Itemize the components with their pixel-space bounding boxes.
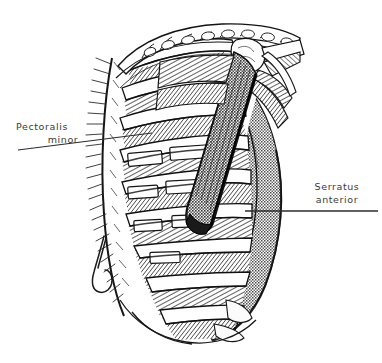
label-serratus-anterior-line1: Serratus bbox=[315, 181, 360, 192]
label-pectoralis-minor: Pectoralis minor bbox=[16, 120, 96, 146]
label-pectoralis-minor-line2: minor bbox=[16, 133, 96, 146]
label-pectoralis-minor-line1: Pectoralis bbox=[16, 121, 68, 132]
label-serratus-anterior: Serratus anterior bbox=[300, 180, 374, 206]
anatomy-figure: Pectoralis minor Serratus anterior bbox=[0, 0, 382, 363]
label-serratus-anterior-line2: anterior bbox=[300, 193, 374, 206]
